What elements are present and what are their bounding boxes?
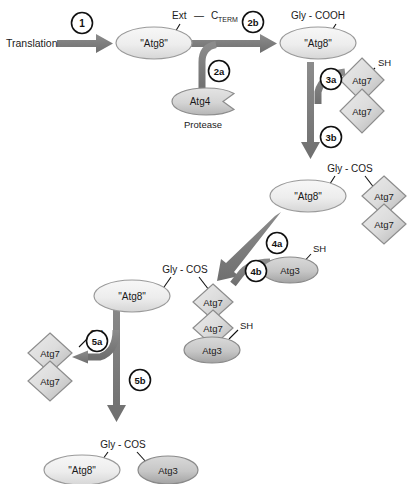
node-atg7-d2-label: Atg7 [40, 376, 60, 387]
node-atg8-5-label: "Atg8" [68, 465, 96, 476]
node-atg8-3-label: "Atg8" [294, 191, 322, 202]
node-atg7-a1-label: Atg7 [352, 75, 372, 86]
step-badge-5a-label: 5a [92, 336, 103, 347]
label-ext-cterm: Ext — C TERM [172, 10, 238, 23]
step-badge-3a[interactable]: 3a [321, 69, 342, 90]
step-badge-2a[interactable]: 2a [209, 61, 230, 82]
node-atg8-3[interactable]: "Atg8" [270, 180, 346, 212]
node-atg7-c1-label: Atg7 [203, 297, 223, 308]
step-badge-1[interactable]: 1 [72, 13, 93, 34]
step-badge-2b[interactable]: 2b [243, 12, 264, 33]
node-atg3-1[interactable]: Atg3 [262, 257, 318, 283]
step-badge-4a-label: 4a [272, 238, 283, 249]
step-badge-3a-label: 3a [326, 74, 337, 85]
node-atg8-4-label: "Atg8" [118, 291, 146, 302]
label-c-term-subscript: TERM [218, 16, 238, 23]
label-sh-atg3-stack: SH [240, 320, 253, 331]
step-badge-1-label: 1 [79, 18, 85, 29]
node-atg8-1-label: "Atg8" [140, 38, 168, 49]
label-gly-cos-3: Gly - COS [100, 439, 146, 450]
node-atg3-3[interactable]: Atg3 [138, 456, 198, 484]
step-badge-3b[interactable]: 3b [321, 127, 342, 148]
node-atg3-3-label: Atg3 [158, 465, 178, 476]
node-atg7-a2-label: Atg7 [352, 106, 372, 117]
node-atg7-c2-label: Atg7 [203, 323, 223, 334]
label-translation: Translation [6, 37, 58, 49]
step-badge-4b[interactable]: 4b [246, 261, 267, 282]
node-atg4-protease[interactable]: Atg4 Protease [172, 88, 234, 130]
node-atg7-b2-label: Atg7 [374, 219, 394, 230]
step-badge-5b-label: 5b [134, 375, 145, 386]
node-atg3-1-label: Atg3 [280, 265, 300, 276]
step-badge-2b-label: 2b [247, 17, 258, 28]
step-badge-5a[interactable]: 5a [87, 331, 108, 352]
node-atg8-5[interactable]: "Atg8" [44, 455, 120, 484]
step-badge-3b-label: 3b [325, 132, 336, 143]
node-atg3-2-label: Atg3 [202, 345, 222, 356]
label-sh-atg3-mid: SH [313, 243, 326, 254]
pathway-diagram: "Atg8" "Atg8" Atg4 Protease Atg7 Atg7 "A… [0, 0, 413, 484]
node-atg7-a2[interactable]: Atg7 [340, 89, 384, 133]
node-atg8-2[interactable]: "Atg8" [280, 27, 356, 59]
label-ext: Ext [172, 10, 187, 21]
label-gly-cos-1: Gly - COS [327, 163, 373, 174]
pathway-canvas: "Atg8" "Atg8" Atg4 Protease Atg7 Atg7 "A… [0, 0, 413, 484]
step-badge-4b-label: 4b [250, 266, 261, 277]
step-badge-4a[interactable]: 4a [267, 233, 288, 254]
label-gly-cooh: Gly - COOH [291, 10, 345, 21]
node-atg4-label: Atg4 [190, 96, 211, 107]
node-atg7-b2[interactable]: Atg7 [362, 204, 406, 244]
node-atg7-b1-label: Atg7 [374, 191, 394, 202]
label-dash: — [194, 10, 204, 21]
label-gly-cos-2: Gly - COS [162, 264, 208, 275]
node-atg7-d2[interactable]: Atg7 [28, 361, 72, 401]
node-atg8-2-label: "Atg8" [304, 38, 332, 49]
arrow-step-1 [57, 34, 113, 53]
node-atg8-1[interactable]: "Atg8" [116, 27, 192, 59]
node-atg7-d1-label: Atg7 [40, 348, 60, 359]
step-badge-2a-label: 2a [214, 66, 225, 77]
node-atg3-2[interactable]: Atg3 [184, 337, 240, 363]
node-atg8-4[interactable]: "Atg8" [94, 280, 170, 312]
label-sh-atg7-top: SH [378, 57, 391, 68]
step-badge-5b[interactable]: 5b [130, 370, 151, 391]
atg4-caption-protease: Protease [184, 119, 222, 130]
